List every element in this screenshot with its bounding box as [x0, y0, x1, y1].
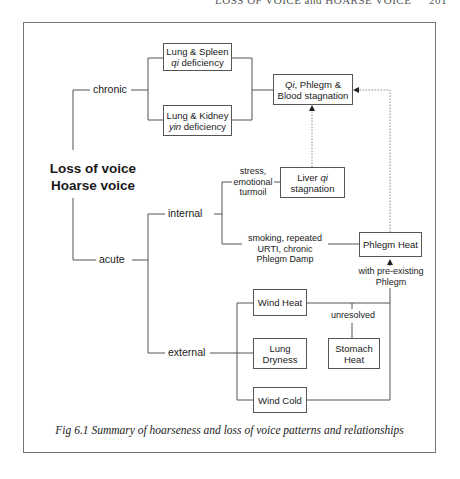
- root-node-loss-of-voice: Loss of voice Hoarse voice: [33, 160, 153, 194]
- node-lung-dryness: Lung Dryness: [253, 338, 307, 369]
- node-line: Lung & Kidney: [167, 110, 229, 121]
- italic-term: Qi: [285, 79, 295, 90]
- root-line-2: Hoarse voice: [33, 177, 153, 194]
- edge-label-unresolved: unresolved: [325, 310, 381, 321]
- node-line: yin deficiency: [169, 121, 226, 132]
- node-line: Liver qi: [297, 172, 328, 183]
- node-line: Wind Heat: [258, 297, 302, 308]
- node-line: Wind Cold: [258, 395, 302, 406]
- node-line: Blood stagnation: [278, 90, 349, 101]
- node-line: Lung: [269, 343, 290, 354]
- node-line: Phlegm Heat: [363, 239, 418, 250]
- node-line: qi deficiency: [171, 57, 223, 68]
- node-line: Stomach: [335, 343, 373, 354]
- italic-term: yin: [169, 121, 181, 132]
- node-text: deficiency: [179, 57, 224, 68]
- node-phlegm-heat: Phlegm Heat: [359, 232, 422, 257]
- branch-internal: internal: [165, 207, 205, 219]
- edge-label-pre-existing-phlegm: with pre-existing Phlegm: [358, 266, 424, 287]
- node-wind-heat: Wind Heat: [253, 289, 307, 316]
- label-line: emotional: [232, 177, 274, 188]
- node-text: Liver: [297, 172, 320, 183]
- root-line-1: Loss of voice: [33, 160, 153, 177]
- label-line: turmoil: [232, 187, 274, 198]
- node-line: Heat: [344, 354, 364, 365]
- label-line: smoking, repeated: [242, 233, 328, 244]
- label-line: URTI, chronic: [242, 244, 328, 255]
- label-line: with pre-existing: [358, 266, 424, 277]
- node-liver-qi-stagnation: Liver qi stagnation: [280, 167, 345, 198]
- italic-term: qi: [320, 172, 327, 183]
- label-line: Phlegm: [358, 277, 424, 288]
- node-lung-kidney-yin-deficiency: Lung & Kidney yin deficiency: [163, 105, 232, 136]
- branch-external: external: [165, 346, 208, 358]
- node-lung-spleen-qi-deficiency: Lung & Spleen qi deficiency: [163, 43, 232, 71]
- branch-acute: acute: [96, 253, 128, 265]
- node-text: , Phlegm &: [295, 79, 341, 90]
- node-stomach-heat: Stomach Heat: [328, 338, 380, 369]
- label-line: Phlegm Damp: [242, 254, 328, 265]
- node-line: Lung & Spleen: [166, 46, 228, 57]
- node-wind-cold: Wind Cold: [253, 387, 307, 413]
- figure-caption: Fig 6.1 Summary of hoarseness and loss o…: [23, 424, 436, 436]
- node-qi-phlegm-blood-stagnation: Qi, Phlegm & Blood stagnation: [273, 74, 353, 105]
- edge-label-smoking: smoking, repeated URTI, chronic Phlegm D…: [242, 233, 328, 265]
- node-text: deficiency: [181, 121, 226, 132]
- node-line: Qi, Phlegm &: [285, 79, 341, 90]
- italic-term: qi: [171, 57, 178, 68]
- node-line: stagnation: [291, 183, 335, 194]
- node-line: Dryness: [263, 354, 298, 365]
- label-line: stress,: [232, 166, 274, 177]
- edge-label-stress: stress, emotional turmoil: [232, 166, 274, 198]
- branch-chronic: chronic: [90, 83, 130, 95]
